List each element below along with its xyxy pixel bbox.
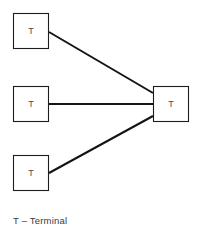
diagram-canvas: T T T T T – Terminal — [0, 0, 202, 239]
node-label-top-left: T — [28, 26, 34, 36]
node-terminal-top-left[interactable]: T — [14, 14, 49, 49]
node-label-middle-left: T — [28, 99, 34, 109]
legend-caption: T – Terminal — [13, 215, 67, 226]
link-top-terminal-to-hub — [49, 32, 153, 93]
network-topology-diagram: T T T T — [0, 0, 202, 239]
node-terminal-bottom-left[interactable]: T — [14, 156, 49, 191]
node-label-bottom-left: T — [28, 168, 34, 178]
node-label-right-hub: T — [168, 99, 174, 109]
link-group — [49, 32, 153, 173]
node-terminal-right-hub[interactable]: T — [154, 87, 189, 122]
link-bottom-terminal-to-hub — [49, 116, 153, 173]
node-terminal-middle-left[interactable]: T — [14, 87, 49, 122]
